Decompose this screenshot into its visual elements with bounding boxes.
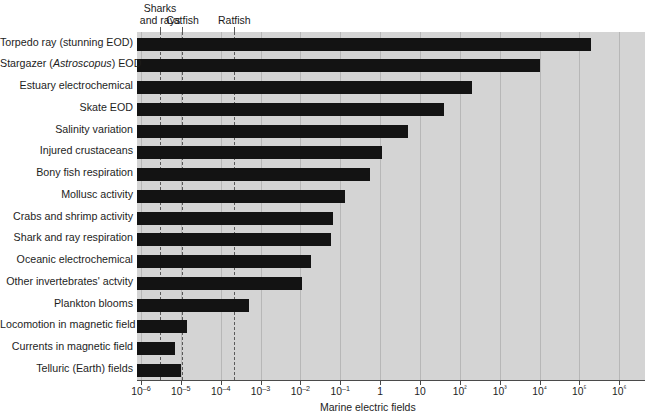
exponent: ²	[464, 384, 466, 393]
bar-9[interactable]	[137, 233, 331, 246]
chart-row	[137, 316, 645, 338]
chart-row	[137, 208, 645, 230]
chart-row	[137, 121, 645, 143]
x-axis-tick-7	[420, 380, 421, 385]
exponent: ⁶	[623, 384, 626, 393]
x-axis-tick-label-6: 1	[377, 386, 383, 397]
x-axis-tick-label-10: 10⁴	[532, 386, 547, 397]
x-axis-tick-label-12: 10⁶	[612, 386, 626, 397]
exponent: ⁵	[584, 384, 587, 393]
bar-15[interactable]	[137, 364, 181, 377]
chart-row	[137, 186, 645, 208]
x-axis-tick-label-4: 10–2	[291, 386, 310, 397]
bar-14[interactable]	[137, 342, 175, 355]
exponent: ⁴	[544, 384, 547, 393]
category-label-11: Other invertebrates' actvity	[0, 275, 133, 287]
x-axis-tick-label-2: 10–4	[211, 386, 230, 397]
chart-row	[137, 229, 645, 251]
bar-10[interactable]	[137, 255, 311, 268]
bar-5[interactable]	[137, 146, 382, 159]
category-label-9: Shark and ray respiration	[0, 231, 133, 243]
exponent: –2	[302, 384, 310, 393]
x-axis-tick-8	[460, 380, 461, 385]
exponent: –6	[143, 384, 151, 393]
chart-row	[137, 295, 645, 317]
x-axis-tick-label-0: 10–6	[131, 386, 150, 397]
x-axis-tick-label-7: 10	[414, 386, 425, 397]
chart-row	[137, 77, 645, 99]
x-axis-tick-label-11: 10⁵	[572, 386, 586, 397]
category-label-5: Injured crustaceans	[0, 144, 133, 156]
exponent: –4	[222, 384, 230, 393]
chart-row	[137, 251, 645, 273]
x-axis-tick-11	[579, 380, 580, 385]
chart-row	[137, 99, 645, 121]
x-axis-tick-label-5: 10–1	[331, 386, 350, 397]
category-label-6: Bony fish respiration	[0, 166, 133, 178]
x-axis-tick-label-8: 10²	[453, 386, 467, 397]
x-axis-tick-label-1: 10–5	[171, 386, 190, 397]
x-axis-tick-6	[380, 380, 381, 385]
x-axis-tick-label-3: 10–3	[251, 386, 270, 397]
bar-2[interactable]	[137, 81, 472, 94]
annotation-label-1: Catfish	[166, 15, 199, 27]
chart-row	[137, 360, 645, 382]
x-axis-tick-10	[540, 380, 541, 385]
exponent: ³	[504, 384, 506, 393]
bar-8[interactable]	[137, 212, 333, 225]
annotation-label-line1: Ratfish	[218, 15, 251, 27]
plot-area	[137, 32, 645, 380]
bar-3[interactable]	[137, 103, 444, 116]
category-label-2: Estuary electrochemical	[0, 79, 133, 91]
bar-4[interactable]	[137, 125, 408, 138]
category-label-15: Telluric (Earth) fields	[0, 362, 133, 374]
annotation-label-2: Ratfish	[218, 15, 251, 27]
x-axis-tick-label-9: 10³	[493, 386, 507, 397]
category-label-1: Stargazer (Astroscopus) EOD	[0, 57, 133, 69]
category-label-10: Oceanic electrochemical	[0, 253, 133, 265]
species-name-italic: Astroscopus	[53, 57, 112, 69]
marine-electric-fields-chart: Sharksand raysCatfishRatfish Torpedo ray…	[0, 0, 657, 411]
category-label-13: Locomotion in magnetic field	[0, 318, 133, 330]
x-axis-tick-12	[619, 380, 620, 385]
exponent: –1	[342, 384, 350, 393]
chart-row	[137, 273, 645, 295]
annotation-label-line1: Catfish	[166, 15, 199, 27]
chart-row	[137, 164, 645, 186]
category-label-12: Plankton blooms	[0, 297, 133, 309]
bar-0[interactable]	[137, 38, 591, 51]
plot-inner	[137, 32, 645, 380]
chart-row	[137, 338, 645, 360]
x-axis-tick-9	[500, 380, 501, 385]
bar-6[interactable]	[137, 168, 370, 181]
category-label-7: Mollusc activity	[0, 188, 133, 200]
category-label-14: Currents in magnetic field	[0, 340, 133, 352]
x-axis-caption: Marine electric fields	[320, 401, 416, 411]
category-label-0: Torpedo ray (stunning EOD)	[0, 36, 133, 48]
bar-13[interactable]	[137, 320, 187, 333]
chart-row	[137, 34, 645, 56]
x-axis-line	[137, 380, 645, 381]
exponent: –5	[183, 384, 191, 393]
bar-1[interactable]	[137, 59, 540, 72]
chart-row	[137, 55, 645, 77]
bar-7[interactable]	[137, 190, 345, 203]
bar-12[interactable]	[137, 299, 249, 312]
chart-row	[137, 142, 645, 164]
category-label-3: Skate EOD	[0, 101, 133, 113]
category-label-8: Crabs and shrimp activity	[0, 210, 133, 222]
category-label-4: Salinity variation	[0, 123, 133, 135]
exponent: –3	[262, 384, 270, 393]
bar-11[interactable]	[137, 277, 302, 290]
